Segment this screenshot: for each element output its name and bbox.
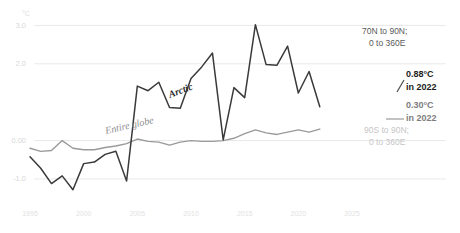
globe-region-line1: 90S to 90N; [364, 125, 409, 135]
gridlines-group [34, 25, 446, 179]
globe-series-label: Entire globe [103, 114, 155, 136]
globe-value-annotation: 0.30°C in 2022 [406, 100, 437, 123]
globe-value-line2: in 2022 [406, 113, 437, 123]
arctic-value-leader-line [397, 80, 404, 92]
x-tick-label-1995: 1995 [22, 210, 38, 217]
arctic-series-line [30, 25, 320, 190]
arctic-value-annotation: 0.88°C in 2022 [406, 69, 437, 92]
x-tick-label-2025: 2025 [344, 210, 360, 217]
x-tick-label-2015: 2015 [237, 210, 253, 217]
globe-region-line2: 0 to 360E [369, 137, 406, 147]
arctic-region-line1: 70N to 90N; [362, 26, 407, 36]
globe-value-line1: 0.30°C [406, 100, 434, 110]
arctic-value-line1: 0.88°C [406, 69, 434, 79]
globe-region-annotation: 90S to 90N; 0 to 360E [364, 125, 409, 147]
arctic-region-annotation: 70N to 90N; 0 to 360E [362, 26, 407, 48]
arctic-value-line2: in 2022 [406, 82, 437, 92]
y-tick-label--1.0: -1.0 [13, 174, 26, 183]
x-tick-label-2020: 2020 [291, 210, 307, 217]
arctic-series-label: Arctic [166, 80, 195, 100]
y-axis-unit-label: °C [22, 10, 30, 17]
arctic-inline-label-group: Arctic [166, 80, 195, 100]
temperature-anomaly-chart: 3.02.00.00-1.0 1995200020052010201520202… [0, 0, 460, 233]
arctic-region-line2: 0 to 360E [369, 38, 406, 48]
x-axis-tick-labels: 1995200020052010201520202025 [22, 210, 360, 217]
y-tick-label-3.0: 3.0 [16, 21, 26, 30]
chart-canvas: 3.02.00.00-1.0 1995200020052010201520202… [0, 0, 460, 233]
x-tick-label-2000: 2000 [76, 210, 92, 217]
globe-inline-label-group: Entire globe [103, 114, 155, 136]
y-axis-tick-labels: 3.02.00.00-1.0 [11, 21, 26, 184]
y-tick-label-2.0: 2.0 [16, 59, 26, 68]
x-tick-label-2010: 2010 [183, 210, 199, 217]
x-tick-label-2005: 2005 [130, 210, 146, 217]
y-tick-label-0.00: 0.00 [11, 136, 26, 145]
